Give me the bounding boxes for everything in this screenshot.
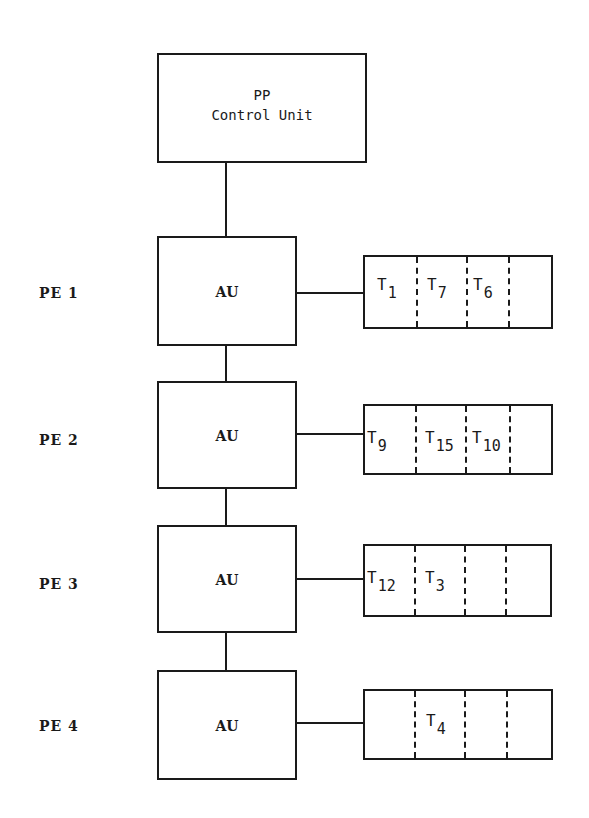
slot-divider [464, 546, 466, 615]
slot-divider [464, 691, 466, 758]
slot-divider [414, 546, 416, 615]
task-slot-2: T7 [427, 275, 447, 302]
au-label: AU [159, 282, 295, 302]
task-slot-2: T15 [425, 428, 454, 455]
au-box-pe2: AU [157, 381, 297, 489]
pe-label-3: PE 3 [39, 576, 79, 592]
connector-pe1-to-pe2 [225, 345, 227, 382]
slot-divider [414, 691, 416, 758]
task-slot-3: T6 [473, 275, 493, 302]
slot-divider [415, 406, 417, 473]
task-slot-1: T12 [367, 568, 396, 595]
au-box-pe4: AU [157, 670, 297, 780]
au-label: AU [159, 570, 295, 590]
au-label: AU [159, 426, 295, 446]
task-slot-2: T3 [425, 568, 445, 595]
slot-divider [506, 691, 508, 758]
pe-label-1: PE 1 [39, 285, 79, 301]
connector-pe3-to-pe4 [225, 632, 227, 671]
slot-divider [508, 257, 510, 327]
task-slot-1: T9 [367, 428, 387, 455]
task-queue-pe2: T9 T15 T10 [363, 404, 553, 475]
au-box-pe1: AU [157, 236, 297, 346]
connector-au1-to-queue1 [296, 292, 364, 294]
pe-label-4: PE 4 [39, 718, 79, 734]
task-queue-pe1: T1 T7 T6 [363, 255, 553, 329]
slot-divider [505, 546, 507, 615]
slot-divider [465, 406, 467, 473]
connector-au3-to-queue3 [296, 578, 364, 580]
connector-pe2-to-pe3 [225, 488, 227, 526]
slot-divider [466, 257, 468, 327]
connector-pp-to-pe1 [225, 162, 227, 237]
pp-control-unit-box: PP Control Unit [157, 53, 367, 163]
task-slot-1: T1 [377, 275, 397, 302]
task-queue-pe4: T4 [363, 689, 553, 760]
task-slot-2: T4 [426, 711, 446, 738]
au-label: AU [159, 716, 295, 736]
pp-label: PP [159, 85, 365, 105]
control-unit-label: Control Unit [159, 105, 365, 125]
pe-label-2: PE 2 [39, 432, 79, 448]
slot-divider [416, 257, 418, 327]
task-queue-pe3: T12 T3 [363, 544, 552, 617]
connector-au4-to-queue4 [296, 722, 364, 724]
task-slot-3: T10 [472, 428, 501, 455]
slot-divider [509, 406, 511, 473]
connector-au2-to-queue2 [296, 433, 364, 435]
au-box-pe3: AU [157, 525, 297, 633]
